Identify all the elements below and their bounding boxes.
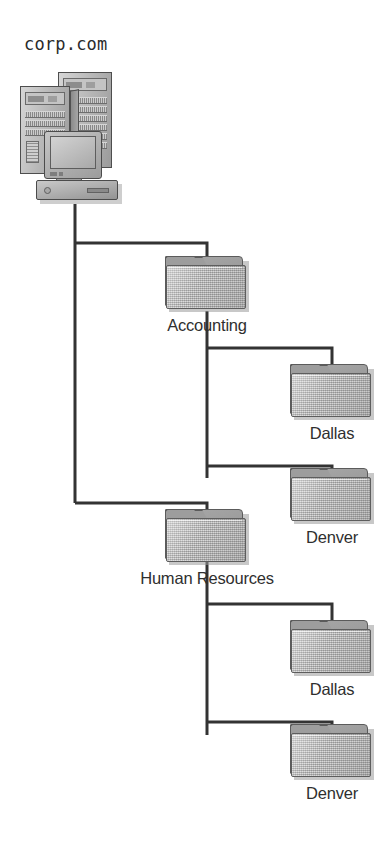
node-label-accounting: Accounting — [167, 316, 247, 335]
server-slot — [25, 120, 65, 127]
monitor-control — [59, 172, 63, 176]
folder-highlight — [293, 631, 367, 632]
diagram-canvas: corp.com — [0, 0, 389, 844]
node-root-server[interactable] — [18, 72, 122, 200]
folder-front — [166, 518, 246, 562]
folder-highlight — [168, 520, 242, 521]
node-label-human-resources: Human Resources — [140, 569, 274, 588]
server-bay — [25, 92, 65, 105]
folder-icon — [165, 509, 249, 565]
node-label-accounting-denver: Denver — [306, 528, 358, 547]
monitor-screen — [50, 136, 96, 169]
node-accounting-dallas[interactable]: Dallas — [290, 364, 374, 420]
monitor-control — [50, 172, 57, 176]
folder-highlight — [293, 375, 367, 376]
monitor-icon — [44, 131, 102, 179]
folder-icon — [290, 364, 374, 420]
node-label-hr-dallas: Dallas — [310, 680, 355, 699]
folder-front — [291, 629, 371, 673]
folder-icon — [290, 620, 374, 676]
folder-front — [291, 373, 371, 417]
server-vent — [26, 141, 39, 163]
node-human-resources[interactable]: Human Resources — [165, 509, 249, 565]
folder-front — [291, 477, 371, 521]
server-icon — [18, 72, 122, 200]
root-domain-title: corp.com — [24, 34, 107, 54]
folder-highlight — [293, 735, 367, 736]
node-hr-denver[interactable]: Denver — [290, 724, 374, 780]
folder-front — [166, 265, 246, 309]
power-button-icon — [44, 187, 51, 194]
node-accounting-denver[interactable]: Denver — [290, 468, 374, 524]
desktop-case — [36, 180, 118, 200]
node-label-accounting-dallas: Dallas — [310, 424, 355, 443]
folder-front — [291, 733, 371, 777]
folder-highlight — [293, 479, 367, 480]
floppy-drive-icon — [87, 188, 109, 193]
folder-icon — [165, 256, 249, 312]
node-hr-dallas[interactable]: Dallas — [290, 620, 374, 676]
server-slot — [25, 111, 65, 118]
node-label-hr-denver: Denver — [306, 784, 358, 803]
folder-icon — [290, 724, 374, 780]
folder-highlight — [168, 267, 242, 268]
folder-icon — [290, 468, 374, 524]
node-accounting[interactable]: Accounting — [165, 256, 249, 312]
